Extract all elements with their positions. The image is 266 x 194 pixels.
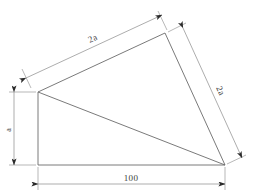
left-height-dimension: a	[4, 92, 36, 165]
ext-line-right-start	[168, 23, 186, 32]
right-edge-label: 2a	[214, 85, 227, 97]
dim-line-top	[26, 15, 162, 78]
bottom-width-label: 100	[124, 173, 139, 183]
left-height-label: a	[4, 128, 13, 132]
edge-top-left	[38, 33, 165, 92]
ext-line-top-start	[22, 69, 31, 88]
top-edge-label: 2a	[87, 32, 99, 45]
ext-line-top-end	[158, 11, 167, 30]
ext-line-right-end	[227, 155, 246, 164]
top-edge-dimension: 2a	[22, 11, 167, 88]
drawing-canvas: 2a 2a a 100	[0, 0, 266, 194]
dimension-drawing: 2a 2a a 100	[0, 0, 266, 194]
plate-outline	[38, 33, 225, 165]
bottom-width-dimension: 100	[38, 167, 225, 190]
right-edge-dimension: 2a	[168, 23, 246, 164]
